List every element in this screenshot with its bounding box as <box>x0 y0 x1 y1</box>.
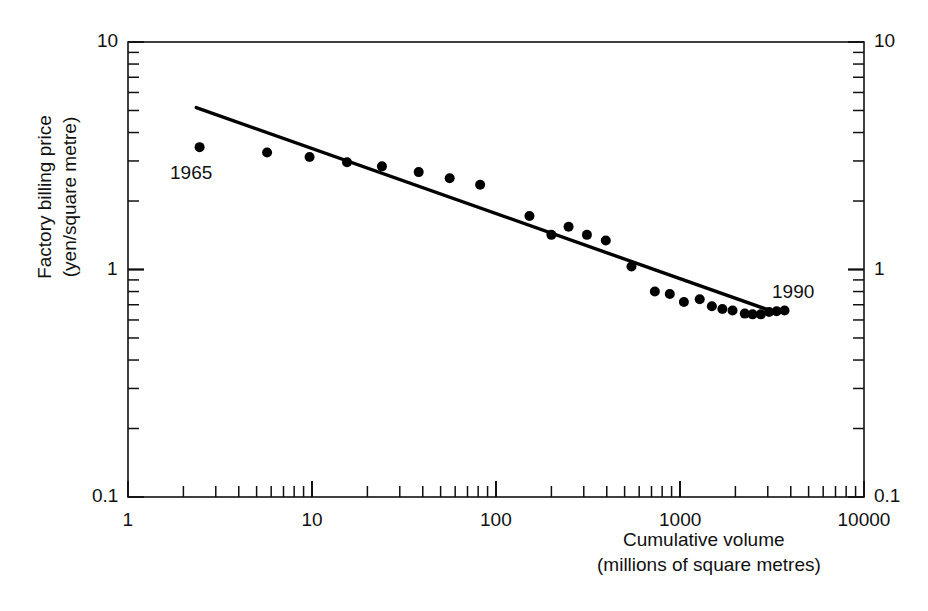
y-tick-label-left: 0.1 <box>92 485 118 507</box>
data-point <box>342 157 352 167</box>
annotation-1965: 1965 <box>170 162 212 184</box>
x-tick-label: 100 <box>480 509 512 531</box>
y-axis-ticks-left <box>128 42 144 497</box>
data-point <box>564 222 574 232</box>
data-point <box>305 152 315 162</box>
data-point <box>679 297 689 307</box>
data-point <box>524 211 534 221</box>
plot-frame <box>128 42 864 497</box>
data-point <box>780 306 790 316</box>
data-point <box>475 180 485 190</box>
y-tick-label-right: 10 <box>874 30 895 52</box>
x-tick-label: 1000 <box>659 509 701 531</box>
data-point <box>728 306 738 316</box>
x-axis-ticks <box>128 481 864 497</box>
data-point <box>445 173 455 183</box>
data-point <box>582 230 592 240</box>
data-point <box>665 289 675 299</box>
data-points <box>195 142 790 319</box>
data-point <box>195 142 205 152</box>
y-tick-label-left: 1 <box>107 258 118 280</box>
trend-line-segment <box>196 108 776 313</box>
x-tick-label: 10000 <box>838 509 891 531</box>
x-tick-label: 10 <box>302 509 323 531</box>
annotation-1990: 1990 <box>772 281 814 303</box>
data-point <box>650 287 660 297</box>
data-point <box>601 236 611 246</box>
y-tick-label-right: 0.1 <box>874 485 900 507</box>
x-tick-label: 1 <box>123 509 134 531</box>
plot-area <box>0 0 928 611</box>
data-point <box>377 161 387 171</box>
data-point <box>546 230 556 240</box>
y-tick-label-right: 1 <box>874 258 885 280</box>
data-point <box>707 301 717 311</box>
data-point <box>414 167 424 177</box>
data-point <box>695 294 705 304</box>
data-point <box>262 147 272 157</box>
chart-figure: Factory billing price (yen/square metre)… <box>0 0 928 611</box>
data-point <box>626 262 636 272</box>
trend-line <box>196 108 776 313</box>
y-axis-ticks-right <box>848 42 864 497</box>
data-point <box>717 304 727 314</box>
y-tick-label-left: 10 <box>97 30 118 52</box>
